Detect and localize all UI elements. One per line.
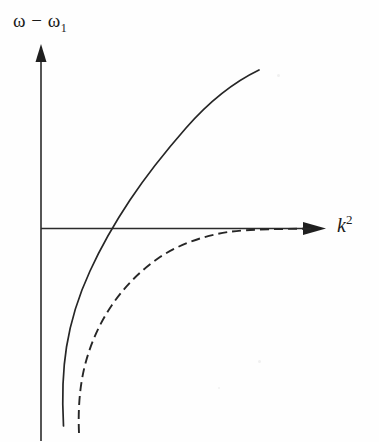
y-axis-label-main: ω − ω [13,10,61,31]
y-axis-label-subscript: 1 [61,21,67,35]
y-axis-label: ω − ω1 [13,10,67,36]
x-axis-label: k2 [337,212,352,237]
scan-speck [277,74,280,77]
dispersion-relation-figure: ω − ω1 k2 [0,0,379,442]
curve-dashed-lower-branch [79,229,311,433]
x-axis-label-main: k [337,214,346,236]
plot-canvas [0,0,379,442]
y-axis-arrowhead-icon [36,44,47,62]
x-axis-label-superscript: 2 [346,212,353,227]
curve-solid-upper-branch [63,70,259,426]
scan-speck [218,387,220,389]
scan-speck [258,360,261,363]
